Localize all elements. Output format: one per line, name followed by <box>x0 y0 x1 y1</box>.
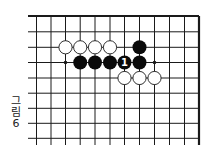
black-stone: 1 <box>118 56 132 70</box>
white-stone <box>59 41 72 54</box>
white-stone <box>74 41 87 54</box>
point-dot-mark <box>64 61 68 65</box>
black-stone <box>133 40 147 54</box>
white-stone <box>148 71 161 84</box>
stone-move-number: 1 <box>121 57 128 68</box>
point-dot-mark <box>153 61 157 65</box>
black-stone <box>133 56 147 70</box>
white-stone <box>103 41 116 54</box>
caption-char-3: 6 <box>13 118 20 129</box>
board-grid <box>28 16 199 145</box>
white-stone <box>118 71 131 84</box>
black-stone <box>88 56 102 70</box>
go-board-diagram: 1 <box>0 0 212 159</box>
black-stone <box>73 56 87 70</box>
white-stone <box>133 71 146 84</box>
black-stone <box>103 56 117 70</box>
figure-caption: 그 림 6 <box>9 96 23 129</box>
white-stone <box>88 41 101 54</box>
